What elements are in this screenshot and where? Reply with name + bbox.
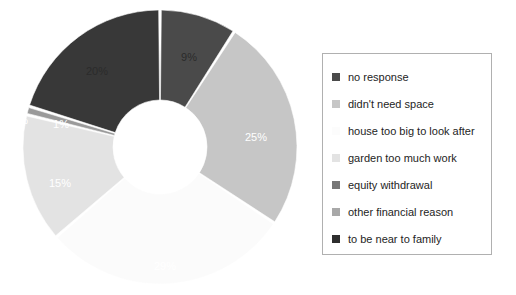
legend-color-swatch-icon: [332, 100, 340, 108]
donut-data-label: 20%: [86, 65, 108, 77]
donut-data-label: 15%: [49, 177, 71, 189]
legend-color-swatch-icon: [332, 127, 340, 135]
legend-color-swatch-icon: [332, 208, 340, 216]
legend-item-label: garden too much work: [348, 152, 457, 164]
donut-data-label: 9%: [181, 51, 197, 63]
legend-item[interactable]: house too big to look after: [332, 117, 491, 144]
legend-item[interactable]: garden too much work: [332, 144, 491, 171]
legend-item-label: other financial reason: [348, 206, 453, 218]
legend-item[interactable]: equity withdrawal: [332, 171, 491, 198]
legend-item[interactable]: to be near to family: [332, 225, 491, 252]
donut-slice-group: [23, 10, 297, 284]
donut-chart: 9%25%29%15%1%0%20%: [0, 0, 320, 295]
legend-color-swatch-icon: [332, 154, 340, 162]
donut-data-label: 0%: [12, 114, 28, 126]
donut-data-label: 1%: [53, 118, 69, 130]
legend-item[interactable]: other financial reason: [332, 198, 491, 225]
legend-item-label: house too big to look after: [348, 125, 475, 137]
donut-data-label: 29%: [154, 260, 176, 272]
legend-item[interactable]: didn't need space: [332, 90, 491, 117]
legend-item-list: no responsedidn't need spacehouse too bi…: [323, 54, 491, 254]
legend-item-label: to be near to family: [348, 233, 442, 245]
legend-item-label: no response: [348, 71, 409, 83]
donut-chart-svg: [0, 0, 320, 295]
legend-item[interactable]: no response: [332, 63, 491, 90]
legend-item-label: equity withdrawal: [348, 179, 432, 191]
legend-color-swatch-icon: [332, 235, 340, 243]
donut-data-label: 25%: [245, 131, 267, 143]
chart-screenshot: 9%25%29%15%1%0%20% no responsedidn't nee…: [0, 0, 516, 295]
legend-item-label: didn't need space: [348, 98, 434, 110]
legend-color-swatch-icon: [332, 181, 340, 189]
chart-legend: no responsedidn't need spacehouse too bi…: [322, 53, 492, 255]
legend-color-swatch-icon: [332, 73, 340, 81]
